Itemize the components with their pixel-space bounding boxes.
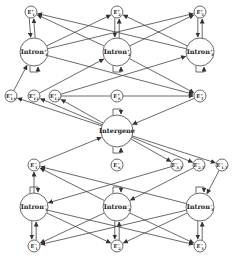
node-E2m: E−2 [111, 240, 123, 252]
node-label: Intron+2 [104, 48, 131, 57]
node-I2p: Intron+2 [103, 38, 131, 66]
edge-I2p-to-E3p [130, 15, 194, 46]
node-I1m: Intron−1 [20, 193, 48, 221]
edge-EI1m-to-I3m [207, 170, 219, 193]
node-Esp: E+S [111, 90, 123, 102]
self-loop-IG [113, 109, 121, 115]
node-I1p: Intron+1 [20, 38, 48, 66]
node-ETp: E+T [194, 90, 206, 102]
edge-EI2m-to-I2m [130, 168, 193, 200]
node-E3m: E−3 [194, 240, 206, 252]
edge-IG-to-EI1p [40, 99, 102, 125]
edge-I2m-to-E1m [40, 213, 104, 243]
node-label: Intron−2 [104, 203, 131, 212]
edge-IG-to-EI1m [132, 136, 215, 163]
node-EI2m: E−2,T [193, 159, 205, 171]
self-loop-I2p [113, 66, 121, 72]
node-E1p: E+1 [25, 6, 37, 18]
node-label: Intergene [99, 127, 135, 135]
node-label: Intron+3 [187, 48, 214, 57]
node-label: Intron−3 [187, 203, 214, 212]
node-I2m: Intron−2 [103, 193, 131, 221]
edge-I2p-to-E1p [37, 15, 104, 46]
node-label: Intron−1 [21, 203, 48, 212]
gene-structure-diagram: E+1E+2E+3Intron+1Intron+2Intron+3E+I,SE+… [0, 0, 232, 259]
node-ESm: E−S [111, 159, 123, 171]
edge-ETm-to-IG [40, 137, 102, 162]
node-E2p: E+2 [111, 6, 123, 18]
node-I3p: Intron+3 [186, 38, 214, 66]
node-EI1p: E+I,1 [28, 90, 40, 102]
node-I3m: Intron−3 [186, 193, 214, 221]
self-loop-I1p [30, 66, 38, 72]
node-EIsp: E+I,S [5, 90, 17, 102]
self-loop-IG [113, 147, 121, 153]
edge-EIsp-to-I1p [14, 65, 27, 90]
edge-I1p-to-E1p [34, 19, 35, 38]
node-EI3m: E−3,T [171, 159, 183, 171]
nodes-layer: E+1E+2E+3Intron+1Intron+2Intron+3E+I,SE+… [5, 6, 228, 252]
node-label: Intron+1 [21, 48, 48, 57]
self-loop-I3p [196, 66, 204, 72]
node-ETm: E−T [28, 159, 40, 171]
edge-I2m-to-E3m [130, 213, 194, 243]
node-IG: Intergene [99, 115, 135, 147]
node-EI1m: E−1,T [216, 159, 228, 171]
edge-IG-to-EIsp [18, 98, 102, 126]
node-EI2p: E+I,2 [49, 90, 61, 102]
edge-EI1p-to-I2p [39, 59, 103, 93]
node-E3p: E+3 [194, 6, 206, 18]
edge-IG-to-EI2m [132, 137, 193, 162]
node-E1m: E−1 [28, 240, 40, 252]
self-loop-I3m [196, 187, 204, 193]
edge-ETp-to-IG [133, 98, 195, 124]
self-loop-I2m [113, 187, 121, 193]
edge-E1p-to-I1p [29, 18, 30, 37]
